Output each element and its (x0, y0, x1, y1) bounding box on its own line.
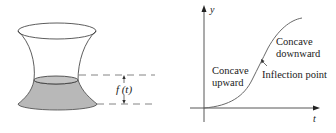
t-axis-label: t (313, 113, 316, 124)
graph-figure: y t Concave downward Concave upward Infl… (190, 4, 327, 124)
vessel-left-wall (18, 31, 34, 80)
liquid-surface (34, 76, 78, 84)
arrow-up-head (122, 75, 125, 79)
vessel-right-wall (78, 31, 96, 80)
concave-down-label-1: Concave (276, 36, 313, 47)
liquid-fill (18, 80, 97, 110)
vessel-top-rim (18, 23, 96, 39)
inflection-label: Inflection point (262, 69, 327, 80)
concave-down-label-2: downward (276, 48, 321, 59)
concave-up-label-1: Concave (212, 65, 249, 76)
concave-up-label-2: upward (212, 77, 244, 88)
vessel-figure: f (t) (18, 23, 155, 110)
y-axis-label: y (209, 4, 215, 15)
growth-curve (204, 18, 302, 108)
arrow-down-head (122, 100, 125, 104)
height-label: f (t) (116, 83, 133, 96)
y-axis-arrow-icon (202, 5, 207, 12)
t-axis-arrow-icon (313, 106, 320, 111)
diagram-canvas: f (t) y t Concave downward Concave upwar… (0, 0, 336, 133)
